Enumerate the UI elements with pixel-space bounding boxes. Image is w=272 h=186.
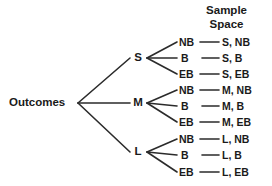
tree-diagram-canvas: Sample Space Outcomes S M L NB B EB NB B… — [0, 0, 272, 186]
node-level2-l-nb: NB — [179, 134, 194, 145]
branch-l-to-nb — [147, 139, 177, 152]
outcome-s-nb: S, NB — [222, 37, 250, 48]
outcome-s-b: S, B — [222, 53, 242, 64]
outcome-l-nb: L, NB — [222, 134, 249, 145]
outcome-l-b: L, B — [222, 150, 242, 161]
sample-space-header: Sample Space — [206, 4, 247, 31]
outcome-m-nb: M, NB — [222, 85, 252, 96]
node-level1-s: S — [131, 52, 145, 64]
node-level2-m-nb: NB — [179, 85, 194, 96]
root-node-outcomes: Outcomes — [9, 97, 65, 109]
sample-space-header-line2: Space — [206, 18, 247, 32]
node-level2-l-eb: EB — [179, 167, 194, 178]
node-level2-l-b: B — [181, 150, 189, 161]
branch-root-to-s — [78, 58, 130, 103]
outcome-m-b: M, B — [222, 101, 244, 112]
branch-s-to-nb — [147, 42, 177, 58]
node-level2-m-b: B — [181, 101, 189, 112]
node-level1-l: L — [131, 146, 145, 158]
branch-root-to-l — [78, 103, 130, 152]
node-level2-s-eb: EB — [179, 69, 194, 80]
sample-space-header-line1: Sample — [206, 4, 247, 18]
node-level1-m: M — [131, 97, 145, 109]
branch-m-to-nb — [147, 90, 177, 103]
branch-s-to-eb — [147, 58, 177, 74]
node-level2-m-eb: EB — [179, 117, 194, 128]
outcome-s-eb: S, EB — [222, 69, 249, 80]
outcome-l-eb: L, EB — [222, 167, 249, 178]
node-level2-s-nb: NB — [179, 37, 194, 48]
outcome-m-eb: M, EB — [222, 117, 251, 128]
node-level2-s-b: B — [181, 53, 189, 64]
